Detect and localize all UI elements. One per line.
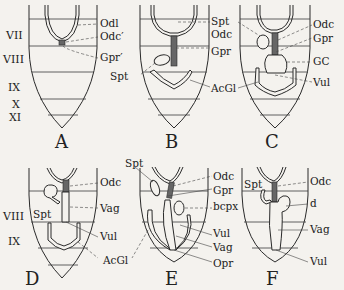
spermatheca xyxy=(257,35,269,49)
label-odc-f: Odc xyxy=(310,175,331,187)
label-d: d xyxy=(310,197,317,209)
label-spt-c: Spt xyxy=(211,15,230,27)
spermatheca xyxy=(153,53,171,67)
panel-f: Spt Odc d Vag Vul F xyxy=(242,167,331,289)
label-spt: Spt xyxy=(110,70,129,82)
segment-label-xi: XI xyxy=(9,111,21,124)
segment-label-ix-bottom: IX xyxy=(8,235,20,248)
label-gpr-e: Gpr xyxy=(213,184,234,196)
label-odc-b: Odc xyxy=(211,28,232,40)
label-vag-f: Vag xyxy=(309,223,330,235)
accessory-gland xyxy=(48,223,80,250)
vagina xyxy=(269,196,290,250)
spermatheca xyxy=(44,185,60,204)
label-gc: GC xyxy=(313,55,329,67)
label-odc-d: Odc xyxy=(100,176,121,188)
panel-c: Odc Gpr GC Vul C xyxy=(238,5,334,152)
panel-e: Spt E xyxy=(125,157,212,289)
accessory-gland xyxy=(150,70,192,89)
label-vag-e: Vag xyxy=(212,241,233,253)
figure-label-b: B xyxy=(165,131,178,152)
label-vul-d: Vul xyxy=(99,230,118,242)
label-gpr-prime: Gpr′ xyxy=(100,51,123,63)
figure-label-c: C xyxy=(265,131,279,152)
bursa-copulatrix xyxy=(174,201,184,215)
abdomen-outline xyxy=(29,5,97,128)
segment-label-viii-bottom: VIII xyxy=(2,210,24,223)
vagina xyxy=(62,192,69,222)
accessory-gland-right xyxy=(176,215,191,250)
label-vag-d: Vag xyxy=(99,202,120,214)
label-acgl-b: AcGl xyxy=(210,82,237,94)
figure-label-f: F xyxy=(266,268,279,289)
label-bcpx: bcpx xyxy=(213,200,238,212)
segment-label-vii: VII xyxy=(5,29,23,42)
panel-b: Spt B xyxy=(110,5,210,152)
label-vul-c: Vul xyxy=(312,76,331,88)
label-gpr-c: Gpr xyxy=(313,32,334,44)
lateral-oviduct xyxy=(45,5,79,42)
panel-d: Odc Spt Vag Vul AcGl D xyxy=(25,168,129,289)
segment-label-ix: IX xyxy=(8,81,20,94)
spermatheca xyxy=(149,179,162,197)
label-acgl-d: AcGl xyxy=(102,254,129,266)
lateral-oviduct xyxy=(151,5,197,36)
label-vul-f: Vul xyxy=(309,255,328,267)
common-oviduct xyxy=(171,36,177,66)
genital-pore-primitive xyxy=(59,40,65,45)
label-odc-e: Odc xyxy=(213,170,234,182)
label-spt-f: Spt xyxy=(244,178,263,190)
figure-label-a: A xyxy=(54,131,69,152)
segment-label-x: X xyxy=(12,98,20,111)
label-odc-prime: Odc′ xyxy=(100,30,124,42)
label-gpr-b: Gpr xyxy=(211,45,232,57)
genital-ducts-diagram: VII VIII IX X XI VIII IX Odl Odc′ Gpr′ A xyxy=(0,0,344,290)
label-opr: Opr xyxy=(213,257,234,269)
label-odc-c: Odc xyxy=(313,18,334,30)
common-oviduct xyxy=(63,180,69,192)
common-oviduct xyxy=(272,182,277,202)
genital-chamber xyxy=(265,55,287,73)
label-spt-e: Spt xyxy=(125,157,144,169)
label-spt-d: Spt xyxy=(33,208,52,220)
segment-label-viii: VIII xyxy=(2,53,24,66)
label-odl: Odl xyxy=(100,17,119,29)
figure-label-e: E xyxy=(165,268,178,289)
label-vul-e: Vul xyxy=(212,227,231,239)
figure-label-d: D xyxy=(25,268,39,289)
